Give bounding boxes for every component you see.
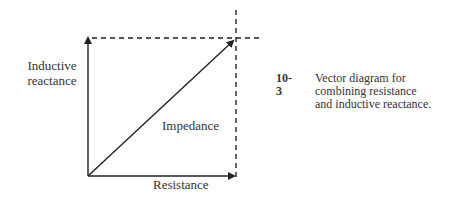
figure-number: 10-3	[276, 72, 292, 98]
figure-caption-text: Vector diagram for combining resistance …	[315, 72, 457, 111]
caption-line-3: and inductive reactance.	[315, 98, 457, 111]
impedance-label: Impedance	[162, 118, 219, 133]
inductive-reactance-label-line2: reactance	[22, 73, 82, 88]
resistance-label: Resistance	[153, 177, 209, 192]
vector-diagram: Inductive reactance Impedance Resistance…	[0, 0, 457, 206]
impedance-vector	[88, 41, 233, 176]
inductive-reactance-label: Inductive reactance	[22, 58, 82, 88]
inductive-reactance-label-line1: Inductive	[22, 58, 82, 73]
